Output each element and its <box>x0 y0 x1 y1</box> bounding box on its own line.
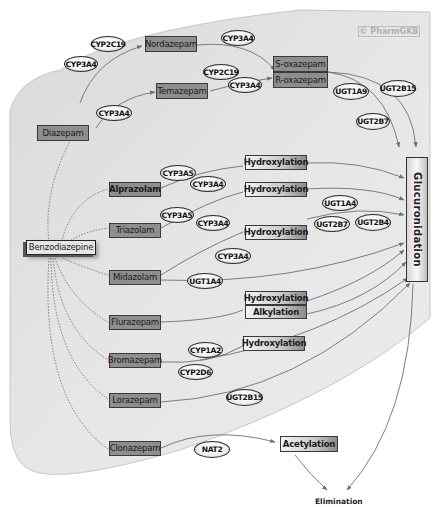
enzyme-cyp3a4-temazepam-oxazepam[interactable]: CYP3A4 <box>228 77 262 93</box>
node-glucuronidation[interactable]: Glucuronidation <box>406 157 428 282</box>
node-alprazolam[interactable]: Alprazolam <box>109 182 161 197</box>
node-flurazepam[interactable]: Flurazepam <box>109 315 161 330</box>
node-diazepam[interactable]: Diazepam <box>37 125 89 141</box>
node-clonazepam[interactable]: Clonazepam <box>109 441 161 456</box>
benzodiazepine-pathway-diagram: © PharmGKB Benzodiazepine Diazepam Norda… <box>0 0 433 507</box>
enzyme-cyp3a4-alprazolam[interactable]: CYP3A4 <box>190 176 226 192</box>
elimination-label: Elimination <box>315 497 363 506</box>
enzyme-cyp3a4-diazepam-temazepam[interactable]: CYP3A4 <box>96 105 132 121</box>
enzyme-cyp3a4-triazolam[interactable]: CYP3A4 <box>196 215 230 231</box>
node-bromazepam[interactable]: Bromazepam <box>109 353 161 368</box>
node-alkylation-flurazepam[interactable]: Alkylation <box>245 305 307 319</box>
enzyme-cyp3a4-nordazepam[interactable]: CYP3A4 <box>64 56 98 72</box>
node-temazepam[interactable]: Temazepam <box>156 83 208 99</box>
node-benzodiazepine[interactable]: Benzodiazepine <box>26 240 96 255</box>
enzyme-cyp2d6-bromazepam[interactable]: CYP2D6 <box>178 364 213 380</box>
enzyme-cyp3a4-oxazepam-top[interactable]: CYP3A4 <box>221 30 255 46</box>
enzyme-cyp2c19-temazepam[interactable]: CYP2C19 <box>203 64 239 80</box>
node-hydroxylation-bromazepam[interactable]: Hydroxylation <box>243 336 305 351</box>
glucuronidation-label: Glucuronidation <box>412 172 423 267</box>
node-hydroxylation-midazolam[interactable]: Hydroxylation <box>245 225 307 240</box>
node-nordazepam[interactable]: Nordazepam <box>145 36 197 52</box>
enzyme-ugt2b7-hydroxy[interactable]: UGT2B7 <box>314 216 350 232</box>
node-r-oxazepam[interactable]: R-oxazepam <box>273 72 328 88</box>
node-lorazepam[interactable]: Lorazepam <box>109 393 161 408</box>
enzyme-nat2-clonazepam[interactable]: NAT2 <box>194 441 230 458</box>
node-hydroxylation-flurazepam[interactable]: Hydroxylation <box>245 291 307 305</box>
enzyme-ugt2b15-lorazepam[interactable]: UGT2B15 <box>226 389 263 406</box>
enzyme-ugt2b15-oxazepam[interactable]: UGT2B15 <box>380 80 416 97</box>
enzyme-ugt1a4-midazolam[interactable]: UGT1A4 <box>187 273 223 289</box>
node-s-oxazepam[interactable]: S-oxazepam <box>273 56 328 72</box>
enzyme-ugt2b7-oxazepam[interactable]: UGT2B7 <box>356 113 390 130</box>
enzyme-ugt1a9[interactable]: UGT1A9 <box>333 83 369 100</box>
enzyme-ugt2b4-hydroxy[interactable]: UGT2B4 <box>355 214 391 231</box>
enzyme-cyp3a5-triazolam[interactable]: CYP3A5 <box>160 207 194 223</box>
node-hydroxylation-triazolam[interactable]: Hydroxylation <box>245 182 307 197</box>
node-hydroxylation-alprazolam[interactable]: Hydroxylation <box>245 155 307 170</box>
enzyme-cyp2c19-nordazepam[interactable]: CYP2C19 <box>91 36 125 52</box>
pharmgkb-watermark: © PharmGKB <box>358 26 420 37</box>
enzyme-cyp3a5-alprazolam[interactable]: CYP3A5 <box>160 165 196 181</box>
node-midazolam[interactable]: Midazolam <box>109 270 161 285</box>
node-acetylation-clonazepam[interactable]: Acetylation <box>280 436 338 452</box>
enzyme-cyp3a4-midazolam[interactable]: CYP3A4 <box>215 248 251 264</box>
enzyme-ugt1a4-hydroxy[interactable]: UGT1A4 <box>322 195 358 211</box>
enzyme-cyp1a2-bromazepam[interactable]: CYP1A2 <box>188 342 223 358</box>
node-triazolam[interactable]: Triazolam <box>109 223 161 238</box>
